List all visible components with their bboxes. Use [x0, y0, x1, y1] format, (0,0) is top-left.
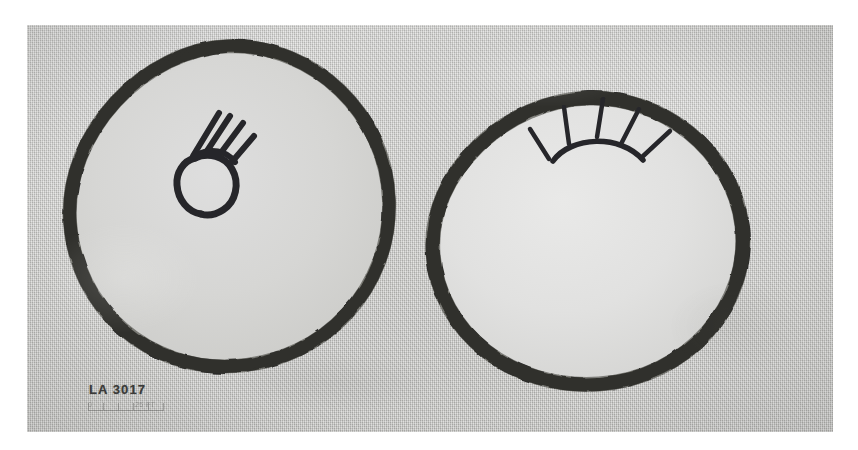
scale-end-label: 25 FT	[135, 401, 155, 408]
left-design-drawing	[46, 30, 416, 390]
scale-bar: 0 25 FT	[88, 403, 166, 421]
scale-start-label: 0	[88, 401, 92, 408]
scale-bar-line	[88, 410, 164, 411]
right-circular-design	[417, 86, 767, 406]
scale-bar-ticks: 0 25 FT	[88, 403, 166, 412]
scanned-photo-print: LA 3017 0 25 FT	[27, 25, 833, 432]
scale-tick	[103, 403, 104, 410]
right-design-drawing	[417, 86, 767, 406]
scale-tick	[163, 403, 164, 410]
scale-tick	[133, 403, 134, 410]
photographic-plate: LA 3017 0 25 FT	[0, 0, 858, 450]
scale-tick	[118, 403, 119, 410]
catalog-label: LA 3017	[89, 382, 146, 397]
left-circular-design	[46, 30, 416, 390]
